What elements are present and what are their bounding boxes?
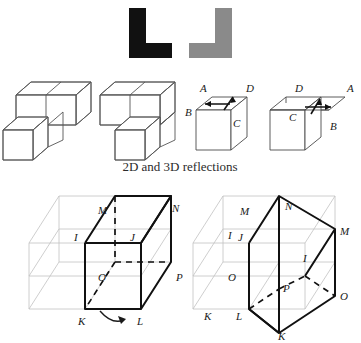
prism1-label-P: P	[175, 271, 183, 283]
figure-caption: 2D and 3D reflections	[122, 159, 237, 174]
prism2-label-L: L	[235, 310, 242, 322]
cube4-label-B: B	[330, 120, 337, 132]
cube3-label-A: A	[199, 82, 207, 94]
cube3-label-C: C	[233, 117, 241, 129]
prism1-label-K: K	[77, 315, 86, 327]
prism2-label-N: N	[284, 200, 293, 212]
cube4-label-C: C	[289, 111, 297, 123]
prism2-label-O: O	[340, 290, 348, 302]
prism2-label-K-ghost: K	[203, 310, 212, 322]
reflections-figure: A B C D D A C B 2D and 3D refl	[0, 0, 361, 343]
prism2-label-P: P	[282, 282, 290, 294]
cube3-front-face	[196, 110, 231, 150]
cube3-label-B: B	[185, 106, 192, 118]
cube4-label-D: D	[294, 82, 303, 94]
prism1-label-M: M	[97, 204, 108, 216]
prism2-label-K: K	[277, 330, 286, 342]
cube3-label-D: D	[245, 82, 254, 94]
prism2-label-O-ghost: O	[228, 271, 236, 283]
cube4-front-face	[270, 110, 305, 150]
prism2-label-M: M	[339, 225, 350, 237]
prism2-label-M-ghost: M	[239, 205, 250, 217]
figure-root: A B C D D A C B 2D and 3D refl	[0, 0, 361, 343]
prism1-label-O: O	[98, 271, 106, 283]
cube4-label-A: A	[346, 82, 354, 94]
prism1-label-L: L	[136, 315, 143, 327]
prism1-label-N: N	[171, 202, 180, 214]
